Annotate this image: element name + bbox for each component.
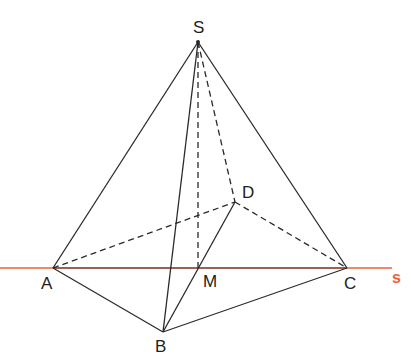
edge-sa [53,42,198,268]
point-label-a: A [41,274,53,293]
point-label-m: M [203,272,217,291]
point-label-b: B [155,337,166,356]
edge-sc [198,42,347,268]
edge-ad [53,202,235,268]
edge-dc [235,202,347,268]
point-label-c: C [344,274,356,293]
visible-edges [53,42,347,332]
apex-dot [196,40,200,44]
edge-bd [163,202,235,332]
hidden-edges [53,42,347,268]
edge-bc [163,268,347,332]
point-label-s: S [193,18,204,37]
point-label-d: D [242,183,254,202]
edge-ab [53,268,163,332]
edge-sb [163,42,198,332]
edge-sd [198,42,235,202]
pyramid-diagram: s SABCDM [0,0,411,359]
line-s-label: s [392,269,401,286]
